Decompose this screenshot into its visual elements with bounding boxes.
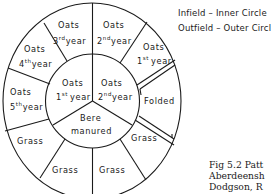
legend-outfield: Outfield – Outer Circle: [178, 23, 271, 33]
outer-segment-oats-4th-year: Oats 4thyear: [19, 44, 52, 69]
outer-segment-oats-1st-year: Oats 1styear: [137, 42, 172, 66]
infield-outfield-diagram: Oats 1styear Oats 2ndyear Bere manured O…: [0, 0, 271, 194]
outer-segment-grass: Grass: [17, 136, 43, 146]
svg-text:1styear: 1styear: [56, 91, 91, 102]
outer-divider: [8, 68, 50, 84]
svg-text:Grass: Grass: [99, 165, 125, 175]
inner-segment-oats-2nd-year: Oats 2ndyear: [98, 78, 133, 102]
outer-segment-folded: Folded: [144, 96, 175, 106]
inner-segment-oats-1st-year: Oats 1styear: [56, 78, 91, 102]
caption-line: Dodgson, R: [209, 181, 265, 192]
outer-segment-oats-5th-year: Oats 5thyear: [10, 87, 43, 112]
svg-text:Oats: Oats: [58, 20, 79, 30]
svg-text:Folded: Folded: [144, 96, 175, 106]
svg-text:1styear: 1styear: [137, 55, 172, 66]
inner-segment-bere-manured: Bere manured: [71, 113, 112, 136]
svg-text:Oats: Oats: [62, 78, 83, 88]
caption-line: Aberdeensh: [209, 170, 265, 181]
svg-text:2ndyear: 2ndyear: [98, 91, 133, 102]
outer-segment-grass: Grass: [99, 165, 125, 175]
outer-segment-oats-2nd-year: Oats 2ndyear: [97, 20, 132, 46]
caption-line: Tr I t B: [209, 192, 265, 194]
svg-text:Oats: Oats: [103, 20, 124, 30]
caption-line: Fig 5.2 Patt: [209, 159, 265, 170]
svg-text:Grass: Grass: [52, 165, 78, 175]
svg-text:4thyear: 4thyear: [19, 58, 52, 69]
svg-text:2ndyear: 2ndyear: [97, 35, 132, 46]
figure-caption: Fig 5.2 Patt Aberdeensh Dodgson, R Tr I …: [209, 159, 265, 194]
outer-segment-grass: Grass: [52, 165, 78, 175]
svg-text:3rdyear: 3rdyear: [53, 35, 86, 46]
outer-divider: [5, 119, 49, 131]
svg-text:manured: manured: [71, 126, 112, 136]
svg-text:5thyear: 5thyear: [10, 101, 43, 112]
svg-text:Oats: Oats: [143, 42, 164, 52]
outer-segment-oats-3rd-year: Oats 3rdyear: [53, 20, 86, 46]
outer-segment-grass: Grass: [131, 133, 157, 143]
svg-text:Oats: Oats: [101, 78, 122, 88]
svg-text:Oats: Oats: [24, 44, 45, 54]
svg-text:Grass: Grass: [131, 133, 157, 143]
svg-text:Grass: Grass: [17, 136, 43, 146]
svg-text:Bere: Bere: [80, 113, 101, 123]
svg-text:Oats: Oats: [10, 87, 31, 97]
legend-infield: Infield – Inner Circle: [178, 8, 267, 18]
